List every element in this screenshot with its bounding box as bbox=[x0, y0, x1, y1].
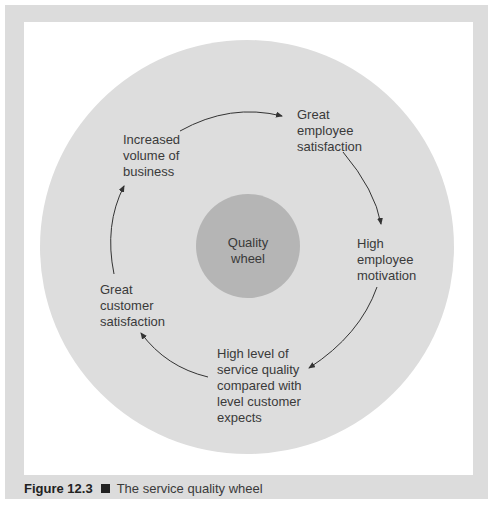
figure-title: The service quality wheel bbox=[117, 481, 263, 496]
node-high-employee-motivation: High employee motivation bbox=[357, 236, 416, 284]
center-label: Quality wheel bbox=[218, 235, 278, 267]
figure-number: Figure 12.3 bbox=[24, 481, 93, 496]
figure-caption: Figure 12.3The service quality wheel bbox=[24, 481, 263, 496]
node-high-service-quality: High level of service quality compared w… bbox=[217, 346, 302, 426]
node-increased-volume-of-business: Increased volume of business bbox=[123, 132, 180, 180]
square-bullet-icon bbox=[101, 484, 110, 493]
node-great-customer-satisfaction: Great customer satisfaction bbox=[100, 282, 165, 330]
node-great-employee-satisfaction: Great employee satisfaction bbox=[297, 107, 362, 155]
